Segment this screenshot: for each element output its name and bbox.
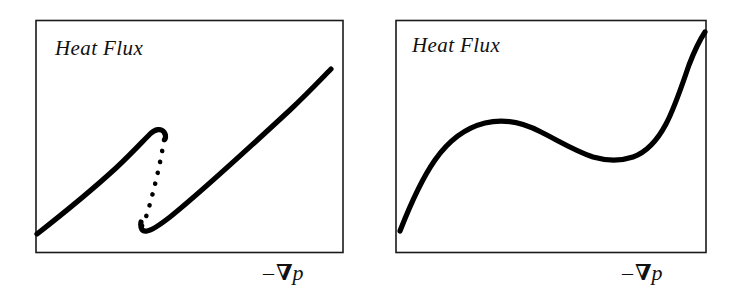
y-axis-label: Heat Flux — [411, 33, 500, 57]
left-panel-plot: Heat Flux — [0, 0, 369, 304]
curve-upper-stable-branch — [141, 69, 331, 231]
figure-container: Heat Flux –∇p Heat Flux –∇p — [0, 0, 738, 304]
right-panel-plot: Heat Flux — [369, 0, 738, 304]
panel-left: Heat Flux –∇p — [0, 0, 369, 304]
x-axis-label-variable: p — [293, 260, 304, 285]
y-axis-label: Heat Flux — [54, 36, 143, 60]
x-axis-label-minus: – — [263, 260, 274, 285]
x-axis-label-minus: – — [622, 260, 633, 285]
curve-unstable-dotted-branch — [142, 140, 164, 226]
nabla-icon: ∇ — [274, 260, 293, 285]
x-axis-label: –∇p — [622, 262, 663, 284]
panel-right: Heat Flux –∇p — [369, 0, 738, 304]
x-axis-label: –∇p — [263, 262, 304, 284]
nabla-icon: ∇ — [633, 260, 652, 285]
curve-lower-stable-branch — [37, 130, 166, 234]
x-axis-label-variable: p — [652, 260, 663, 285]
curve-heat-flux — [400, 32, 705, 231]
